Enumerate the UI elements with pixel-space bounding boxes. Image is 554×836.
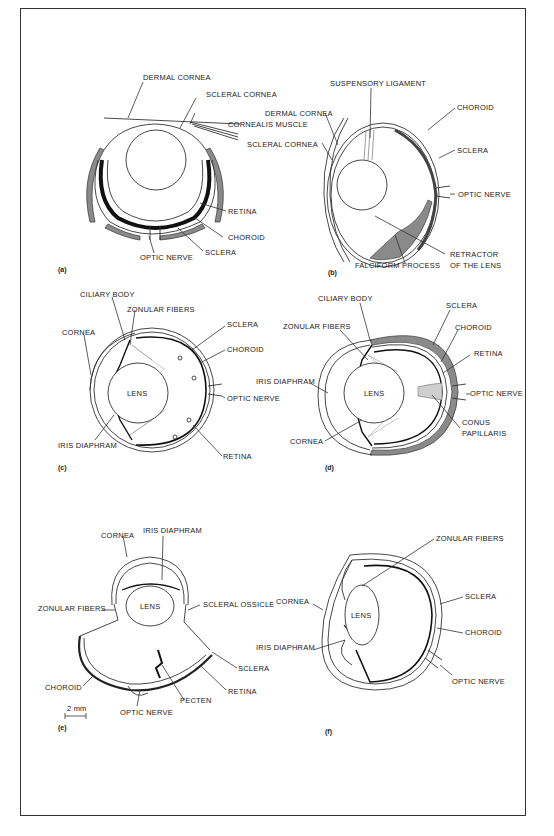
label-choroid: CHOROID: [45, 683, 82, 692]
label-cornea: CORNEA: [101, 531, 134, 540]
optic-nerve-stub: [436, 186, 450, 198]
label-sclera: SCLERA: [238, 664, 269, 673]
suspensory-ligament: [364, 130, 374, 160]
label-optic-nerve: OPTIC NERVE: [458, 190, 511, 199]
sclera-outer: [322, 554, 442, 690]
panel-f: ZONULAR FIBERS CORNEA SCLERA LENS IRIS D…: [256, 534, 505, 736]
inner-layer: [84, 638, 206, 684]
dermal-cornea-line: [104, 118, 240, 124]
label-pecten: PECTEN: [180, 696, 212, 705]
label-of-the-lens: OF THE LENS: [450, 261, 501, 270]
sclera-inner: [328, 559, 436, 684]
label-optic-nerve: OPTIC NERVE: [470, 389, 523, 398]
label-retina: RETINA: [228, 207, 257, 216]
label-ciliary-body: CILIARY BODY: [80, 290, 135, 299]
pecten: [156, 650, 162, 678]
label-falciform-process: FALCIFORM PROCESS: [355, 261, 440, 270]
label-choroid: CHOROID: [228, 233, 265, 242]
label-conus: CONUS: [462, 418, 490, 427]
label-lens: LENS: [351, 611, 371, 620]
label-scleral-ossicle: SCLERAL OSSICLE: [203, 600, 275, 609]
label-cornea: CORNEA: [276, 597, 309, 606]
label-cornea: CORNEA: [62, 328, 95, 337]
label-retina: RETINA: [474, 349, 503, 358]
optic-nerve-stub: [425, 650, 442, 668]
panel-label-b: (b): [328, 269, 337, 277]
conus-papillaris: [418, 383, 442, 400]
label-scleral-cornea: SCLERAL CORNEA: [206, 90, 277, 99]
label-optic-nerve: OPTIC NERVE: [120, 708, 173, 717]
label-sclera: SCLERA: [465, 592, 496, 601]
label-zonular-fibers: ZONULAR FIBERS: [283, 322, 351, 331]
label-retractor: RETRACTOR: [450, 250, 499, 259]
label-cornea: CORNEA: [290, 437, 323, 446]
label-papillaris: PAPILLARIS: [462, 429, 506, 438]
lens: [126, 130, 186, 190]
label-sclera: SCLERA: [446, 301, 477, 310]
label-lens: LENS: [364, 389, 384, 398]
label-zonular-fibers: ZONULAR FIBERS: [436, 534, 504, 543]
label-retina: RETINA: [223, 452, 252, 461]
label-iris-diaphram: IRIS DIAPHRAM: [143, 526, 202, 535]
label-choroid: CHOROID: [465, 628, 502, 637]
scale-bar: 2 mm: [65, 704, 87, 719]
label-optic-nerve: OPTIC NERVE: [140, 253, 193, 262]
label-choroid: CHOROID: [457, 103, 494, 112]
scale-bar-label: 2 mm: [67, 704, 87, 713]
label-retina: RETINA: [228, 687, 257, 696]
label-cornealis-muscle: CORNEALIS MUSCLE: [228, 120, 308, 129]
label-choroid: CHOROID: [227, 345, 264, 354]
label-iris-diaphram: IRIS DIAPHRAM: [256, 377, 315, 386]
label-lens: LENS: [140, 602, 160, 611]
panel-label-c: (c): [58, 464, 67, 472]
label-lens: LENS: [127, 389, 147, 398]
label-iris-diaphram: IRIS DIAPHRAM: [256, 643, 315, 652]
eye-anatomy-figure: DERMAL CORNEA SCLERAL CORNEA CORNEALIS M…: [0, 0, 554, 836]
panel-e: CORNEA IRIS DIAPHRAM LENS ZONULAR FIBERS…: [38, 526, 275, 732]
panel-b: SUSPENSORY LIGAMENT DERMAL CORNEA CHOROI…: [247, 79, 511, 277]
panel-d: CILIARY BODY SCLERA ZONULAR FIBERS CHORO…: [256, 294, 523, 472]
label-sclera: SCLERA: [227, 320, 258, 329]
label-optic-nerve: OPTIC NERVE: [227, 394, 280, 403]
label-scleral-cornea: SCLERAL CORNEA: [247, 140, 318, 149]
label-sclera: SCLERA: [457, 146, 488, 155]
lens: [337, 160, 387, 210]
label-dermal-cornea: DERMAL CORNEA: [265, 109, 333, 118]
label-sclera: SCLERA: [205, 248, 236, 257]
panel-c: CILIARY BODY ZONULAR FIBERS SCLERA CORNE…: [58, 290, 280, 472]
panel-label-e: (e): [58, 724, 67, 732]
label-zonular-fibers: ZONULAR FIBERS: [38, 604, 106, 613]
label-suspensory-ligament: SUSPENSORY LIGAMENT: [330, 79, 426, 88]
label-optic-nerve: OPTIC NERVE: [452, 677, 505, 686]
panel-label-f: (f): [325, 728, 332, 736]
label-choroid: CHOROID: [455, 323, 492, 332]
label-dermal-cornea: DERMAL CORNEA: [143, 73, 211, 82]
label-zonular-fibers: ZONULAR FIBERS: [127, 305, 195, 314]
label-ciliary-body: CILIARY BODY: [318, 294, 373, 303]
panel-label-a: (a): [58, 266, 67, 274]
retina-choroid-sclera: [79, 636, 212, 690]
label-iris-diaphram: IRIS DIAPHRAM: [58, 441, 117, 450]
panel-label-d: (d): [325, 464, 334, 472]
panel-a: DERMAL CORNEA SCLERAL CORNEA CORNEALIS M…: [58, 73, 308, 274]
